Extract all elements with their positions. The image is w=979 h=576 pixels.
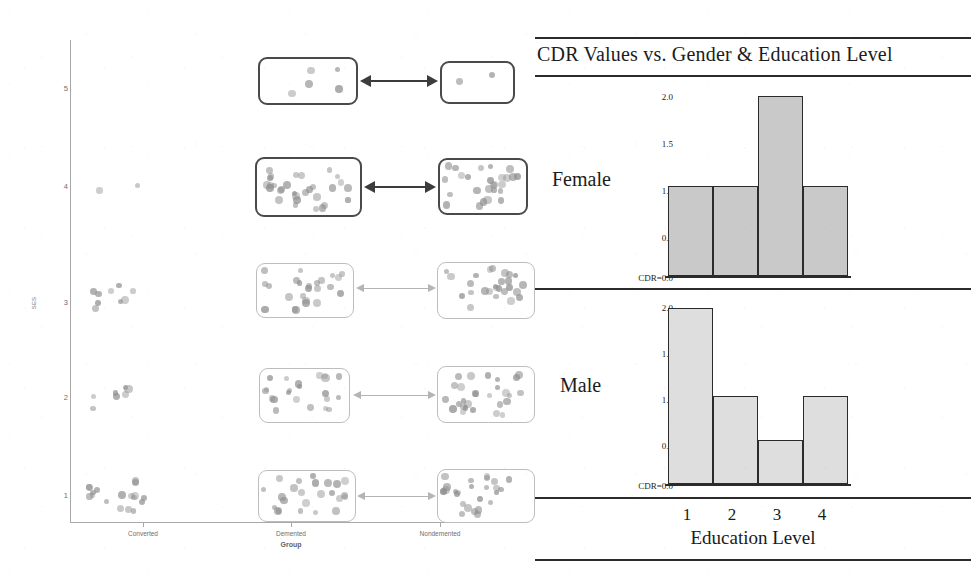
bar-female-edu-4	[803, 186, 848, 276]
female-y-tick-0_5: 0.5	[613, 233, 673, 243]
female-y-tick-1: 1.0	[613, 186, 673, 196]
bar-x-tick-3: 3	[773, 505, 782, 525]
arrowhead-right-icon	[428, 284, 436, 292]
scatter-dot	[124, 385, 132, 393]
cdr-bar-panel: CDR Values vs. Gender & Education Level …	[527, 0, 979, 576]
arrowhead-left-icon	[353, 391, 361, 399]
arrowhead-right-icon	[425, 181, 436, 193]
arrowhead-left-icon	[356, 284, 364, 292]
scatter-x-axis-title: Group	[281, 541, 302, 548]
annotation-arrow-ses4	[364, 180, 436, 194]
bar-male-edu-2	[713, 396, 758, 484]
annotation-box-demented-ses4	[255, 157, 362, 217]
female-y-tick-0: CDR=0.0	[587, 273, 673, 283]
scatter-x-tick-nondemented: Nondemented	[420, 530, 461, 537]
bar-baseline	[665, 276, 851, 278]
annotation-box-demented-ses2	[259, 368, 350, 423]
figure-page: SES Group 5 4 3 2 1 Converted Demented N…	[0, 0, 979, 576]
male-subchart: 2.0 1.5 1.0 0.5 CDR=0.0	[527, 288, 979, 497]
ses-group-scatter-panel: SES Group 5 4 3 2 1 Converted Demented N…	[0, 0, 527, 576]
scatter-dot	[131, 508, 137, 514]
bar-chart-title: CDR Values vs. Gender & Education Level	[537, 43, 893, 66]
scatter-dot	[141, 495, 147, 501]
arrow-shaft	[364, 288, 428, 289]
bar-x-tick-4: 4	[818, 505, 827, 525]
scatter-dot	[95, 291, 102, 298]
annotation-box-demented-ses5	[258, 57, 358, 105]
annotation-box-nondemented-ses3	[437, 262, 535, 319]
arrow-shaft	[375, 186, 425, 188]
tick-mark	[143, 522, 144, 527]
annotation-arrow-ses1	[357, 491, 436, 501]
arrow-shaft	[371, 80, 427, 82]
scatter-dot	[135, 183, 140, 188]
scatter-y-tick-3: 3	[0, 298, 68, 307]
annotation-box-demented-ses1	[258, 470, 356, 522]
male-y-tick-0_5: 0.5	[613, 441, 673, 451]
annotation-box-nondemented-ses4	[438, 158, 528, 215]
female-y-tick-1_5: 1.5	[613, 139, 673, 149]
scatter-dot	[130, 288, 136, 294]
rule-top	[535, 37, 971, 39]
annotation-arrow-ses3	[356, 283, 436, 293]
tick-mark	[440, 522, 441, 527]
bar-baseline	[665, 484, 851, 486]
arrowhead-right-icon	[428, 391, 436, 399]
bar-male-edu-4	[803, 396, 848, 484]
arrow-shaft	[365, 496, 428, 497]
annotation-arrow-ses2	[353, 390, 436, 400]
female-subchart: 2.0 1.5 1.0 0.5 CDR=0.0	[527, 75, 979, 288]
scatter-y-tick-4: 4	[0, 182, 68, 191]
scatter-dot	[118, 491, 126, 499]
scatter-y-tick-5: 5	[0, 84, 68, 93]
scatter-x-tick-demented: Demented	[276, 530, 306, 537]
scatter-dot	[104, 499, 109, 504]
scatter-y-tick-1: 1	[0, 491, 68, 500]
male-y-tick-1: 1.0	[613, 395, 673, 405]
scatter-dot	[92, 305, 100, 313]
annotation-box-demented-ses3	[256, 263, 354, 318]
tick-mark	[291, 522, 292, 527]
male-y-tick-2: 2.0	[613, 303, 673, 313]
bar-x-tick-2: 2	[728, 505, 737, 525]
arrowhead-left-icon	[364, 181, 375, 193]
annotation-box-nondemented-ses2	[437, 366, 535, 423]
scatter-dot	[128, 493, 135, 500]
arrowhead-right-icon	[427, 75, 438, 87]
scatter-dot	[86, 493, 93, 500]
scatter-dot	[117, 505, 124, 512]
arrowhead-left-icon	[357, 492, 365, 500]
scatter-y-tick-2: 2	[0, 393, 68, 402]
bar-female-edu-3	[758, 96, 803, 276]
bar-male-edu-3	[758, 440, 803, 484]
bar-x-tick-1: 1	[683, 505, 692, 525]
bar-female-edu-1	[668, 186, 713, 276]
scatter-dot	[96, 187, 103, 194]
scatter-dot	[108, 288, 113, 293]
male-y-tick-1_5: 1.5	[613, 349, 673, 359]
annotation-box-nondemented-ses1	[437, 469, 535, 523]
annotation-arrow-ses5	[360, 74, 438, 88]
male-y-tick-0: CDR=0.0	[587, 481, 673, 491]
annotation-box-nondemented-ses5	[440, 61, 515, 104]
scatter-dot	[113, 393, 120, 400]
female-y-tick-2: 2.0	[613, 92, 673, 102]
bar-x-axis-title: Education Level	[690, 527, 815, 549]
arrow-shaft	[361, 395, 428, 396]
scatter-dot	[116, 283, 121, 288]
rule-bottom	[535, 559, 971, 561]
scatter-dot	[91, 394, 96, 399]
arrowhead-left-icon	[360, 75, 371, 87]
scatter-x-tick-converted: Converted	[128, 530, 158, 537]
bar-male-edu-1	[668, 308, 713, 484]
scatter-y-axis	[70, 40, 71, 522]
arrowhead-right-icon	[428, 492, 436, 500]
scatter-dot	[90, 406, 96, 412]
rule-under-male	[535, 497, 971, 499]
scatter-dot	[132, 479, 139, 486]
bar-female-edu-2	[713, 186, 758, 276]
